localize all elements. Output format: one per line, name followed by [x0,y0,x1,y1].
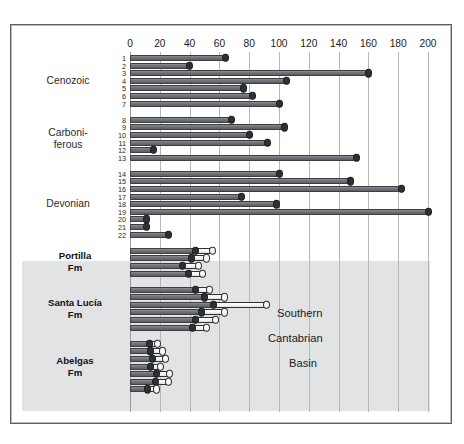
x-tick-label-140: 140 [330,38,347,49]
bar-row [130,117,231,123]
bar-row [130,325,207,331]
bar-segment-gray [130,201,276,207]
bar-row [130,224,146,230]
bar-row [130,147,154,153]
bar-segment-gray [130,155,356,161]
row-number-13: 13 [110,153,126,162]
bar-row [130,348,163,354]
bar-segment-gray [130,178,351,184]
bar-segment-gray [130,63,190,69]
bar-segment-gray [130,248,196,254]
bar-segment-gray [130,317,196,323]
bar-segment-gray [130,140,267,146]
bar-row [130,186,401,192]
gridline-160 [368,52,369,412]
bar-row [130,155,356,161]
group-label-cenozoic: Cenozoic [22,75,114,88]
gridline-140 [339,52,340,412]
bar-row [130,302,267,308]
x-tick-label-200: 200 [420,38,437,49]
group-label-line: Carboni- [22,126,114,139]
chart-page: Compacted carbonate accummulation rates … [0,0,464,444]
group-label-portilla-fm: PortillaFm [20,250,130,274]
bar-segment-gray [130,263,182,269]
bar-row [130,124,285,130]
bar-row [130,364,161,370]
gridline-180 [398,52,399,412]
group-label-abelgas-fm: AbelgasFm [20,355,130,379]
bar-row [130,63,190,69]
x-tick-label-160: 160 [360,38,377,49]
bar-row [130,78,286,84]
bar-segment-gray [130,117,231,123]
x-tick-label-100: 100 [271,38,288,49]
bar-row [130,216,146,222]
bar-segment-gray [130,101,279,107]
basin-caption-line-1: Southern [277,307,322,319]
group-label-line: Devonian [22,198,114,211]
group-label-line: Fm [20,262,130,274]
x-tick-label-20: 20 [154,38,165,49]
bar-row [130,140,267,146]
bar-row [130,248,213,254]
x-tick-label-120: 120 [300,38,317,49]
group-label-line: Fm [20,367,130,379]
row-number-7: 7 [110,99,126,108]
bar-segment-gray [130,271,188,277]
bar-segment-gray [130,194,242,200]
bar-segment-gray [130,325,193,331]
bar-segment-gray [130,302,213,308]
bar-row [130,194,242,200]
bar-row [130,379,169,385]
bar-segment-gray [130,309,202,315]
bar-row [130,271,203,277]
bar-row [130,263,199,269]
bar-row [130,309,225,315]
bar-row [130,171,279,177]
group-label-line: ferous [22,139,114,152]
bar-row [130,356,166,362]
x-tick-label-180: 180 [390,38,407,49]
bar-segment-gray [130,78,286,84]
group-label-santa-lucia-fm: Santa LucíaFm [20,297,130,321]
bar-segment-gray [130,171,279,177]
bar-segment-gray [130,70,368,76]
bar-segment-gray [130,85,243,91]
basin-caption-line-3: Basin [289,357,317,369]
bar-segment-gray [130,255,191,261]
bar-segment-gray [130,287,196,293]
bar-segment-gray [130,186,401,192]
group-label-line: Portilla [20,250,130,262]
group-label-carboniferous: Carboni-ferous [22,126,114,151]
bar-row [130,287,210,293]
bar-row [130,232,169,238]
bar-row [130,85,243,91]
bar-row [130,209,428,215]
bar-row [130,255,207,261]
x-tick-label-60: 60 [214,38,225,49]
basin-caption-line-2: Cantabrian [268,332,323,344]
bar-segment-gray [130,124,285,130]
group-label-line: Fm [20,309,130,321]
bar-row [130,386,157,392]
bar-row [130,70,368,76]
bar-row [130,178,351,184]
group-label-line: Abelgas [20,355,130,367]
x-tick-label-0: 0 [127,38,133,49]
bar-row [130,93,252,99]
bar-segment-gray [130,232,169,238]
bar-segment-gray [130,132,249,138]
bar-row [130,371,170,377]
group-label-line: Santa Lucía [20,297,130,309]
bar-segment-gray [130,55,225,61]
bar-row [130,294,225,300]
row-number-22: 22 [110,230,126,239]
gridline-200 [428,52,429,412]
bar-row [130,341,158,347]
bar-row [130,132,249,138]
bar-row [130,55,225,61]
bar-segment-gray [130,93,252,99]
group-label-devonian: Devonian [22,198,114,211]
bar-segment-gray [130,209,428,215]
x-tick-label-40: 40 [184,38,195,49]
